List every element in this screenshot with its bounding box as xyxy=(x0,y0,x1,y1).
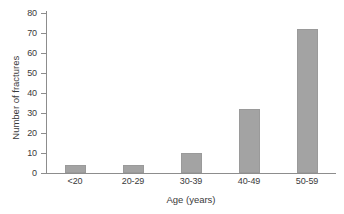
x-axis-tick-label: 20-29 xyxy=(103,177,163,186)
y-axis-tick-label: 70 xyxy=(3,29,37,38)
x-axis-tick-label: <20 xyxy=(45,177,105,186)
y-axis-tick-label: 30 xyxy=(3,109,37,118)
x-axis-tick-label: 30-39 xyxy=(161,177,221,186)
y-axis-tick-label: 80 xyxy=(3,9,37,18)
bar xyxy=(181,153,202,173)
x-axis-tick-label: 50-59 xyxy=(277,177,337,186)
bar-chart-figure: Number of fractures 01020304050607080 <2… xyxy=(0,0,344,214)
y-axis-tick-label: 40 xyxy=(3,89,37,98)
bar xyxy=(239,109,260,173)
y-axis-tick-label: 10 xyxy=(3,149,37,158)
x-axis-tick-label: 40-49 xyxy=(219,177,279,186)
bars-plot-area xyxy=(46,13,336,173)
x-axis-title: Age (years) xyxy=(46,195,336,205)
x-axis-line xyxy=(46,173,336,174)
bar xyxy=(123,165,144,173)
y-axis-tick-label: 0 xyxy=(3,169,37,178)
y-axis-tick-label: 50 xyxy=(3,69,37,78)
bar xyxy=(65,165,86,173)
y-axis-tick-label: 20 xyxy=(3,129,37,138)
y-axis-tick-label: 60 xyxy=(3,49,37,58)
bar xyxy=(297,29,318,173)
y-axis-tick xyxy=(41,173,46,174)
